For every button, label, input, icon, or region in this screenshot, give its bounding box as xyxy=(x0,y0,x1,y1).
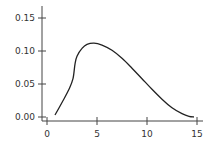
axes xyxy=(42,6,203,121)
y-tick-label: 0.00 xyxy=(15,112,35,122)
y-tick-label: 0.10 xyxy=(15,46,35,56)
x-tick-label: 0 xyxy=(44,129,50,139)
x-ticks: 051015 xyxy=(44,117,203,139)
x-tick-label: 15 xyxy=(191,129,202,139)
y-tick-label: 0.05 xyxy=(15,79,35,89)
y-tick-label: 0.15 xyxy=(15,13,35,23)
line-chart: 0.000.050.100.15 051015 xyxy=(0,0,215,144)
data-line xyxy=(55,43,194,117)
x-tick-label: 5 xyxy=(94,129,100,139)
y-ticks: 0.000.050.100.15 xyxy=(15,13,46,122)
x-tick-label: 10 xyxy=(141,129,153,139)
